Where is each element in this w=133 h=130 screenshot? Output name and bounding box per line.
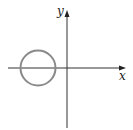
y-axis-arrow-icon — [65, 10, 70, 17]
y-axis-label: y — [56, 4, 64, 18]
coordinate-plane: x y — [0, 0, 133, 130]
x-axis-label: x — [119, 69, 126, 83]
